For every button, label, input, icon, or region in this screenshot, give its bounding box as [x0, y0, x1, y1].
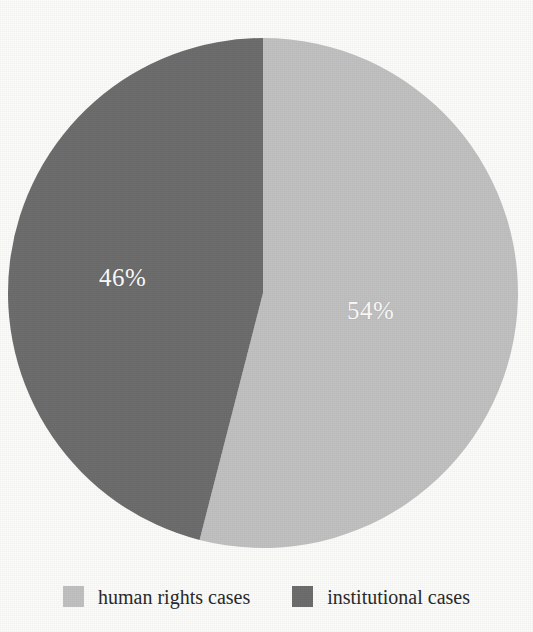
pie-slice-label-institutional-cases: 46% — [99, 265, 146, 290]
pie-plot-area: 46% 54% — [0, 0, 533, 560]
legend-label-institutional-cases: institutional cases — [327, 587, 470, 607]
legend-swatch-icon-institutional-cases — [292, 586, 313, 607]
legend-item-human-rights-cases[interactable]: human rights cases — [63, 578, 250, 607]
legend-label-human-rights-cases: human rights cases — [98, 587, 250, 607]
chart-legend: human rights cases institutional cases — [0, 578, 533, 632]
pie-svg — [0, 0, 533, 560]
legend-swatch-icon-human-rights-cases — [63, 586, 84, 607]
pie-chart-figure: 46% 54% human rights cases institutional… — [0, 0, 533, 632]
pie-slice-label-human-rights-cases: 54% — [347, 298, 394, 323]
legend-item-institutional-cases[interactable]: institutional cases — [292, 578, 470, 607]
